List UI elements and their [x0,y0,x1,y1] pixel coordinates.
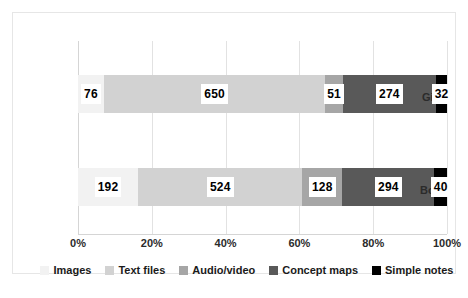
legend-swatch-concept-maps [269,266,278,275]
bar-segment-boys-text-files[interactable]: 524 [138,168,302,206]
x-tick-label-100pct: 100% [433,238,461,249]
bar-value-label: 128 [309,177,336,197]
legend-item-images[interactable]: Images [40,265,91,276]
bar-segment-girls-audio-video[interactable]: 51 [325,75,342,113]
gridline-100pct [447,41,448,234]
bar-value-label: 192 [95,177,122,197]
bar-value-label: 650 [201,84,228,104]
chart-root: 766505127432 19252412829440 Girls Boys 0… [0,0,468,298]
legend-label: Images [53,265,91,276]
legend-swatch-simple-notes [372,266,381,275]
bar-value-label: 294 [375,177,402,197]
legend-item-text-files[interactable]: Text files [105,265,165,276]
legend-item-simple-notes[interactable]: Simple notes [372,265,453,276]
bar-boys[interactable]: 19252412829440 [78,168,447,206]
legend-label: Audio/video [192,265,255,276]
x-tick-label-20pct: 20% [141,238,163,249]
legend-label: Simple notes [385,265,453,276]
bar-value-label: 40 [431,177,451,197]
legend-swatch-audio-video [179,266,188,275]
x-tick-label-40pct: 40% [215,238,237,249]
bar-value-label: 274 [376,84,403,104]
chart-legend: ImagesText filesAudio/videoConcept mapsS… [25,265,468,276]
x-axis-line [78,234,447,235]
x-tick-label-80pct: 80% [362,238,384,249]
bar-value-label: 51 [324,84,344,104]
bar-girls[interactable]: 766505127432 [78,75,447,113]
x-tick-label-0pct: 0% [70,238,86,249]
legend-item-audio-video[interactable]: Audio/video [179,265,255,276]
bar-value-label: 524 [207,177,234,197]
bar-segment-girls-images[interactable]: 76 [78,75,104,113]
bar-segment-girls-simple-notes[interactable]: 32 [436,75,447,113]
bar-segment-boys-images[interactable]: 192 [78,168,138,206]
bar-segment-girls-text-files[interactable]: 650 [104,75,325,113]
x-tick-label-60pct: 60% [288,238,310,249]
bar-segment-boys-simple-notes[interactable]: 40 [434,168,447,206]
bar-value-label: 76 [81,84,101,104]
bar-segment-boys-audio-video[interactable]: 128 [302,168,342,206]
bar-value-label: 32 [432,84,452,104]
legend-label: Text files [118,265,165,276]
legend-swatch-text-files [105,266,114,275]
legend-swatch-images [40,266,49,275]
legend-item-concept-maps[interactable]: Concept maps [269,265,358,276]
plot-area: 766505127432 19252412829440 [78,41,447,234]
x-axis-tick-labels: 0%20%40%60%80%100% [78,238,447,254]
legend-label: Concept maps [282,265,358,276]
chart-frame: 766505127432 19252412829440 Girls Boys 0… [12,12,456,274]
